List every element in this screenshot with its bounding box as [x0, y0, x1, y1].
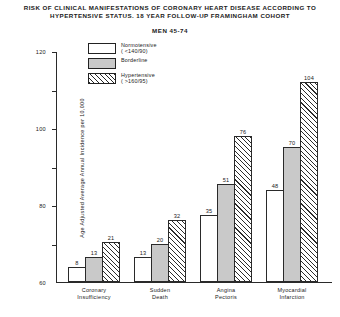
legend-label-normotensive-text: Normotensive	[121, 42, 157, 48]
x-axis-category-label: CoronaryInsufficiency	[77, 287, 110, 301]
y-axis-tick: 120	[52, 52, 57, 53]
bar-group: 4870104MyocardialInfarction	[266, 51, 318, 282]
bar-group: 81321CoronaryInsufficiency	[68, 51, 120, 282]
y-axis-tick: 40	[52, 206, 57, 207]
bar-hypertensive: 32	[168, 220, 186, 282]
bar-chart: RISK OF CLINICAL MANIFESTATIONS OF CORON…	[0, 0, 340, 317]
bar-value-label: 32	[174, 213, 181, 219]
bar-hypertensive: 76	[234, 136, 252, 282]
y-axis-tick: 80	[52, 129, 57, 130]
bar-borderline: 51	[217, 184, 235, 282]
bar-normotensive: 13	[134, 257, 152, 282]
chart-title-line1: RISK OF CLINICAL MANIFESTATIONS OF CORON…	[24, 4, 316, 11]
bar-hypertensive: 21	[102, 242, 120, 282]
bar-borderline: 13	[85, 257, 103, 282]
bar-borderline: 20	[151, 244, 169, 283]
y-axis-tick-label: 120	[36, 49, 46, 55]
category-label-line1: Sudden	[150, 287, 170, 293]
bar-value-label: 35	[206, 208, 213, 214]
bar-hypertensive: 104	[300, 82, 318, 282]
bar-group: 132032SuddenDeath	[134, 51, 186, 282]
x-axis-category-label: SuddenDeath	[150, 287, 170, 301]
x-axis-category-label: AnginaPectoris	[215, 287, 237, 301]
y-axis-tick-label: 60	[39, 280, 46, 286]
y-axis-tick: 20	[52, 245, 57, 246]
y-axis-tick-label: 100	[36, 126, 46, 132]
x-axis-line	[56, 282, 332, 283]
bar-value-label: 104	[304, 75, 314, 81]
y-axis-tick: 100	[52, 91, 57, 92]
chart-title-line2: HYPERTENSIVE STATUS. 18 YEAR FOLLOW-UP F…	[20, 12, 320, 20]
bar-value-label: 13	[91, 250, 98, 256]
x-axis-category-label: MyocardialInfarction	[277, 287, 306, 301]
category-label-line1: Coronary	[82, 287, 107, 293]
bar-normotensive: 35	[200, 215, 218, 282]
bar-value-label: 13	[140, 250, 147, 256]
chart-title: RISK OF CLINICAL MANIFESTATIONS OF CORON…	[20, 4, 320, 21]
category-label-line2: Pectoris	[215, 294, 237, 301]
bar-value-label: 48	[272, 183, 279, 189]
bar-group: 355176AnginaPectoris	[200, 51, 252, 282]
bar-normotensive: 8	[68, 267, 86, 282]
category-label-line1: Angina	[217, 287, 236, 293]
category-label-line2: Infarction	[277, 294, 306, 301]
y-axis-tick: 60	[52, 168, 57, 169]
category-label-line2: Insufficiency	[77, 294, 110, 301]
bar-value-label: 21	[108, 235, 115, 241]
plot-area: Age Adjusted Average Annual Incidence pe…	[56, 52, 332, 283]
bar-value-label: 70	[289, 140, 296, 146]
bar-normotensive: 48	[266, 190, 284, 282]
bar-value-label: 20	[157, 237, 164, 243]
category-label-line2: Death	[150, 294, 170, 301]
bar-borderline: 70	[283, 147, 301, 282]
y-axis-tick-label: 80	[39, 203, 46, 209]
bar-value-label: 51	[223, 177, 230, 183]
bar-value-label: 76	[240, 129, 247, 135]
category-label-line1: Myocardial	[277, 287, 306, 293]
bar-value-label: 8	[75, 260, 78, 266]
chart-subtitle: MEN 45-74	[20, 27, 320, 34]
